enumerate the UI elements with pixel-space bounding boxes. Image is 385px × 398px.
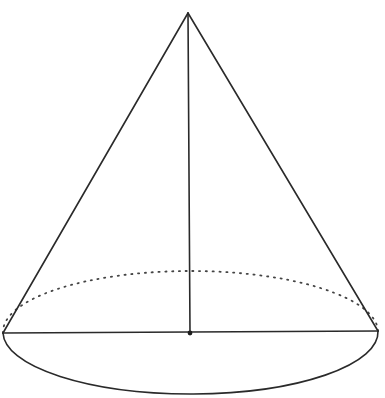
- base-center-point: [188, 331, 193, 336]
- cone-diagram: [0, 0, 385, 398]
- right-slant-edge: [188, 13, 378, 331]
- left-slant-edge: [3, 13, 188, 333]
- cone-height: [188, 13, 190, 333]
- base-front-arc: [3, 331, 378, 394]
